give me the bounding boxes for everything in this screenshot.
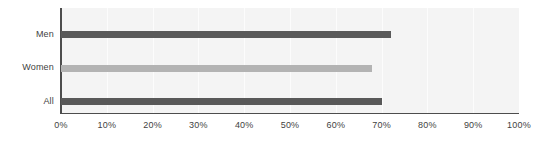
gridline-80% xyxy=(427,8,428,113)
horizontal-bar-chart: MenWomenAll 0%10%20%30%40%50%60%70%80%90… xyxy=(0,0,546,141)
x-tick-label-10%: 10% xyxy=(97,120,116,130)
category-label-women: Women xyxy=(0,62,54,72)
bar-all[interactable] xyxy=(61,98,382,105)
bar-women[interactable] xyxy=(61,65,372,72)
category-label-all: All xyxy=(0,96,54,106)
x-axis-line xyxy=(60,113,519,115)
gridline-70% xyxy=(382,8,383,113)
x-tick-label-70%: 70% xyxy=(372,120,391,130)
bar-men[interactable] xyxy=(61,31,391,38)
x-tick-label-30%: 30% xyxy=(189,120,208,130)
x-tick-label-100%: 100% xyxy=(507,120,531,130)
x-tick-label-90%: 90% xyxy=(464,120,483,130)
category-axis-labels: MenWomenAll xyxy=(0,0,56,141)
x-tick-label-0%: 0% xyxy=(54,120,67,130)
x-tick-label-40%: 40% xyxy=(235,120,254,130)
x-tick-label-20%: 20% xyxy=(143,120,162,130)
category-label-men: Men xyxy=(0,29,54,39)
gridline-90% xyxy=(473,8,474,113)
x-tick-label-80%: 80% xyxy=(418,120,437,130)
x-tick-label-60%: 60% xyxy=(326,120,345,130)
x-tick-label-50%: 50% xyxy=(281,120,300,130)
